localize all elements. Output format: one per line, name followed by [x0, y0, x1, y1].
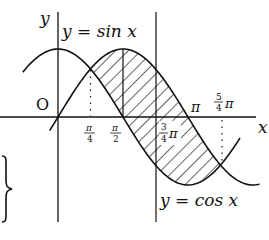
svg-text:4: 4	[87, 134, 93, 144]
svg-text:π: π	[190, 99, 201, 115]
origin-label: O	[36, 95, 49, 114]
y-axis-label: y	[39, 8, 50, 28]
tick-label-pi: π	[190, 99, 204, 115]
sin-curve-label: y = sin x	[61, 21, 137, 41]
svg-text:π: π	[168, 126, 178, 141]
svg-text:4: 4	[161, 134, 167, 144]
cos-curve-label: y = cos x	[159, 190, 239, 210]
svg-text:3: 3	[161, 122, 167, 132]
svg-text:2: 2	[113, 134, 119, 144]
svg-text:π: π	[224, 96, 234, 111]
tick-label-pi-over-4: π 4	[84, 123, 95, 144]
x-axis-label: x	[258, 117, 268, 137]
tick-label-pi-over-2: π 2	[110, 123, 121, 144]
tick-label-3pi-over-4: 3 4 π	[159, 121, 181, 145]
sin-cos-area-diagram: y x O y = sin x y = cos x π 4 π 2 3 4 π …	[0, 0, 269, 240]
svg-text:5: 5	[216, 92, 222, 102]
svg-text:π: π	[111, 123, 119, 133]
tick-label-5pi-over-4: 5 4 π	[214, 92, 234, 113]
svg-text:π: π	[85, 123, 93, 133]
brace-icon	[2, 156, 12, 222]
svg-text:4: 4	[216, 103, 222, 113]
